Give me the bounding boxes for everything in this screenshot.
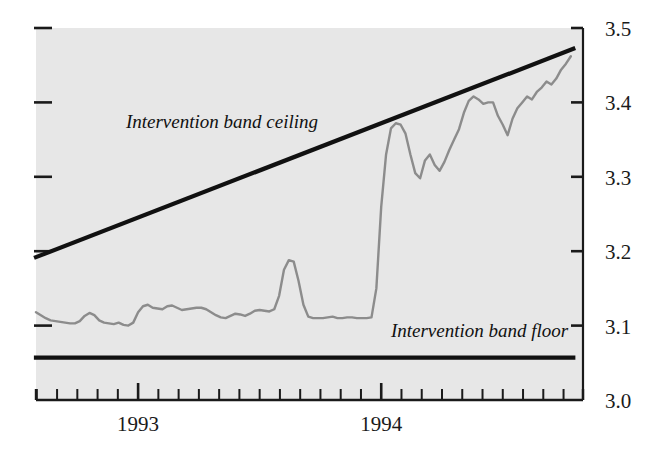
chart-figure: 3.53.43.33.23.13.0 19931994 Intervention… — [0, 0, 667, 452]
y-tick-label: 3.0 — [605, 389, 631, 413]
annotation-floor-label: Intervention band floor — [390, 320, 569, 341]
plot-background — [36, 28, 583, 400]
chart-canvas: 3.53.43.33.23.13.0 19931994 Intervention… — [0, 0, 667, 452]
y-tick-label: 3.2 — [605, 240, 631, 264]
y-tick-label: 3.3 — [605, 166, 631, 190]
y-axis-tick-labels: 3.53.43.33.23.13.0 — [605, 17, 632, 413]
x-tick-label: 1993 — [117, 412, 159, 436]
y-tick-label: 3.5 — [605, 17, 631, 41]
annotation-ceiling-label: Intervention band ceiling — [125, 111, 318, 132]
x-axis-tick-labels: 19931994 — [117, 412, 403, 436]
x-tick-label: 1994 — [360, 412, 403, 436]
y-tick-label: 3.1 — [605, 315, 631, 339]
y-tick-label: 3.4 — [605, 91, 632, 115]
